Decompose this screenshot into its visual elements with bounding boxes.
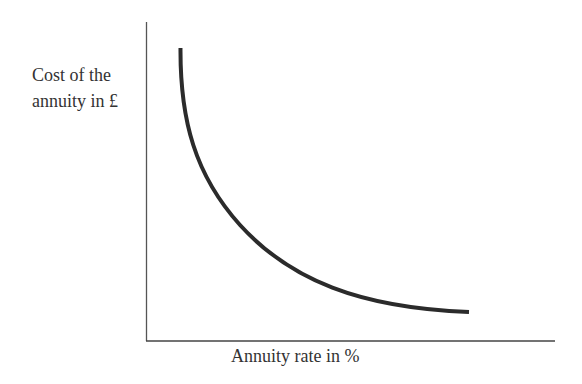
x-axis-label: Annuity rate in % — [231, 343, 359, 369]
cost-curve — [180, 48, 469, 312]
chart-canvas — [0, 0, 582, 384]
